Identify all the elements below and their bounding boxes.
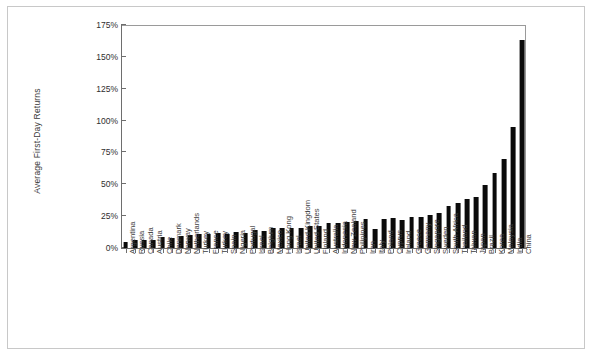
- bars-layer: [121, 25, 527, 248]
- y-axis-tick-label: 50%: [101, 179, 118, 189]
- x-axis-tick-mark: [513, 249, 514, 253]
- x-axis-tick-mark: [282, 249, 283, 253]
- bar-slot: [509, 25, 518, 248]
- x-axis-tick-mark: [144, 249, 145, 253]
- x-axis-tick-mark: [402, 249, 403, 253]
- bar-slot: [176, 25, 185, 248]
- bar-slot: [435, 25, 444, 248]
- x-axis-tick-mark: [264, 249, 265, 253]
- y-axis-tick: 75%: [80, 147, 126, 157]
- x-axis-tick-mark: [495, 249, 496, 253]
- x-axis-labels: ArgentinaRussiaCanadaAustriaChileDenmark…: [121, 254, 527, 349]
- x-axis-tick-mark: [319, 249, 320, 253]
- x-axis-tick-mark: [375, 249, 376, 253]
- x-axis-tick-mark: [153, 249, 154, 253]
- x-axis-tick-mark: [366, 249, 367, 253]
- x-axis-tick-mark: [338, 249, 339, 253]
- y-axis-tick: 125%: [80, 84, 126, 94]
- y-axis-tick: 25%: [80, 211, 126, 221]
- x-axis-tick-mark: [301, 249, 302, 253]
- x-axis-tick-mark: [356, 249, 357, 253]
- bar-slot: [361, 25, 370, 248]
- x-axis-tick-mark: [135, 249, 136, 253]
- bar-slot: [130, 25, 139, 248]
- x-axis-tick-mark: [181, 249, 182, 253]
- x-axis-tick-mark: [227, 249, 228, 253]
- bar-slot: [139, 25, 148, 248]
- x-axis-tick-mark: [273, 249, 274, 253]
- x-axis-tick-mark: [467, 249, 468, 253]
- x-axis-tick-mark: [255, 249, 256, 253]
- bar-slot: [472, 25, 481, 248]
- bar: [520, 40, 525, 248]
- bar-slot: [250, 25, 259, 248]
- x-axis-tick-mark: [126, 249, 127, 253]
- x-axis-tick-mark: [172, 249, 173, 253]
- y-axis-tick: 0%: [80, 243, 126, 253]
- bar-slot: [370, 25, 379, 248]
- bar-slot: [333, 25, 342, 248]
- x-axis-tick-mark: [163, 249, 164, 253]
- y-axis-tick: 175%: [80, 20, 126, 30]
- y-axis-tick: 50%: [80, 179, 126, 189]
- y-axis-tick-label: 100%: [96, 116, 118, 126]
- x-axis-tick-mark: [393, 249, 394, 253]
- y-axis-tick: 150%: [80, 52, 126, 62]
- y-axis-tick-label: 125%: [96, 84, 118, 94]
- bar-slot: [213, 25, 222, 248]
- y-axis-tick-label: 25%: [101, 211, 118, 221]
- bar-slot: [490, 25, 499, 248]
- x-axis-label: United Kingdom: [304, 200, 312, 254]
- x-axis-tick-mark: [190, 249, 191, 253]
- x-axis-tick-mark: [449, 249, 450, 253]
- x-axis-label: China: [525, 234, 533, 254]
- x-axis-tick-mark: [329, 249, 330, 253]
- bar-slot: [518, 25, 527, 248]
- bar-slot: [389, 25, 398, 248]
- x-axis-tick-mark: [347, 249, 348, 253]
- bar-slot: [416, 25, 425, 248]
- x-axis-tick-mark: [199, 249, 200, 253]
- bar-slot: [379, 25, 388, 248]
- bar-slot: [278, 25, 287, 248]
- x-axis-tick-mark: [476, 249, 477, 253]
- x-axis-label: Netherlands: [193, 213, 201, 254]
- x-axis-tick-mark: [458, 249, 459, 253]
- x-axis-tick-mark: [218, 249, 219, 253]
- x-axis-tick-mark: [485, 249, 486, 253]
- x-axis-tick-mark: [209, 249, 210, 253]
- bar-slot: [158, 25, 167, 248]
- y-axis-title: Average First-Day Returns: [32, 41, 42, 241]
- bar-slot: [499, 25, 508, 248]
- x-axis-tick-mark: [412, 249, 413, 253]
- x-axis-tick-mark: [421, 249, 422, 253]
- x-axis-label: United States: [313, 208, 321, 254]
- y-axis-tick-label: 75%: [101, 147, 118, 157]
- bar-slot: [232, 25, 241, 248]
- bar-chart: Average First-Day Returns 175%150%125%10…: [0, 0, 598, 363]
- bar-slot: [269, 25, 278, 248]
- bar-slot: [324, 25, 333, 248]
- bar-slot: [167, 25, 176, 248]
- x-axis-tick-mark: [246, 249, 247, 253]
- bar-slot: [223, 25, 232, 248]
- bar-slot: [398, 25, 407, 248]
- bar-slot: [259, 25, 268, 248]
- y-axis-tick: 100%: [80, 116, 126, 126]
- x-axis-tick-mark: [310, 249, 311, 253]
- x-axis-tick-mark: [236, 249, 237, 253]
- x-axis-tick-mark: [430, 249, 431, 253]
- y-axis-tick-label: 175%: [96, 20, 118, 30]
- y-axis-tick-label: 0%: [106, 243, 118, 253]
- bar-slot: [407, 25, 416, 248]
- bar-slot: [121, 25, 130, 248]
- bar-slot: [149, 25, 158, 248]
- x-axis-tick-mark: [522, 249, 523, 253]
- bar-slot: [204, 25, 213, 248]
- x-axis-label: South Africa: [452, 213, 460, 254]
- bar-slot: [462, 25, 471, 248]
- y-axis-tick-label: 150%: [96, 52, 118, 62]
- bar-slot: [241, 25, 250, 248]
- x-axis-tick-mark: [384, 249, 385, 253]
- x-axis-label: New Zealand: [350, 209, 358, 254]
